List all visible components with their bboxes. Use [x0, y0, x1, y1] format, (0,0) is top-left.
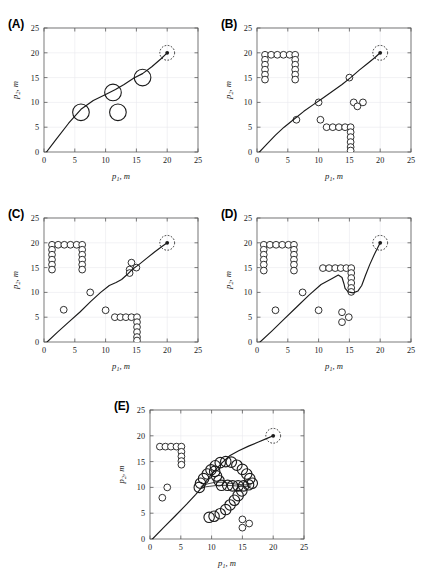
svg-text:25: 25: [407, 346, 415, 355]
svg-text:25: 25: [407, 156, 415, 165]
svg-text:20: 20: [269, 543, 277, 552]
svg-text:0: 0: [42, 346, 46, 355]
svg-text:10: 10: [137, 483, 145, 492]
svg-text:25: 25: [194, 346, 202, 355]
svg-text:5: 5: [141, 509, 145, 518]
svg-text:p1, m: p1, m: [324, 361, 343, 372]
panel-c-label: (C): [8, 207, 24, 221]
svg-text:0: 0: [148, 543, 152, 552]
svg-text:15: 15: [345, 156, 353, 165]
svg-text:0: 0: [255, 346, 259, 355]
svg-text:p1, m: p1, m: [217, 558, 236, 569]
panel-a-label: (A): [8, 17, 24, 31]
svg-text:15: 15: [244, 74, 252, 83]
svg-text:p2, m: p2, m: [10, 271, 21, 290]
svg-text:5: 5: [286, 346, 290, 355]
svg-text:10: 10: [102, 346, 110, 355]
svg-text:25: 25: [137, 406, 145, 415]
panel-c: (C) 05101520250510152025p1, mp2, m: [0, 204, 212, 384]
svg-text:15: 15: [137, 458, 145, 467]
svg-text:p2, m: p2, m: [116, 466, 127, 485]
svg-text:0: 0: [42, 156, 46, 165]
svg-text:15: 15: [31, 74, 39, 83]
svg-text:20: 20: [31, 239, 39, 248]
svg-text:5: 5: [73, 156, 77, 165]
svg-text:20: 20: [137, 432, 145, 441]
svg-text:15: 15: [238, 543, 246, 552]
svg-text:p2, m: p2, m: [10, 81, 21, 100]
svg-text:0: 0: [248, 338, 252, 347]
panel-e-plot: 05101520250510152025p1, mp2, m: [106, 396, 318, 581]
svg-text:20: 20: [163, 346, 171, 355]
svg-text:5: 5: [35, 123, 39, 132]
panel-a-plot: 05101520250510152025p1, mp2, m: [0, 14, 212, 194]
svg-text:25: 25: [31, 24, 39, 33]
svg-text:p1, m: p1, m: [324, 171, 343, 182]
svg-text:p2, m: p2, m: [223, 81, 234, 100]
svg-text:0: 0: [141, 535, 145, 544]
svg-text:20: 20: [376, 156, 384, 165]
panel-e-label: (E): [114, 399, 129, 413]
svg-text:25: 25: [194, 156, 202, 165]
svg-text:15: 15: [132, 156, 140, 165]
panel-b: (B) 05101520250510152025p1, mp2, m: [213, 14, 425, 194]
figure-panel-grid: (A) 05101520250510152025p1, mp2, m (B) 0…: [0, 0, 427, 586]
svg-text:10: 10: [244, 288, 252, 297]
svg-text:15: 15: [345, 346, 353, 355]
svg-text:20: 20: [31, 49, 39, 58]
svg-text:10: 10: [315, 346, 323, 355]
svg-text:20: 20: [244, 49, 252, 58]
svg-text:5: 5: [248, 313, 252, 322]
svg-text:25: 25: [300, 543, 308, 552]
svg-text:10: 10: [31, 98, 39, 107]
panel-a: (A) 05101520250510152025p1, mp2, m: [0, 14, 212, 194]
svg-text:0: 0: [248, 148, 252, 157]
svg-text:10: 10: [102, 156, 110, 165]
panel-d-plot: 05101520250510152025p1, mp2, m: [213, 204, 425, 384]
svg-text:5: 5: [35, 313, 39, 322]
svg-text:15: 15: [132, 346, 140, 355]
svg-text:p1, m: p1, m: [111, 171, 130, 182]
svg-text:20: 20: [163, 156, 171, 165]
svg-text:5: 5: [73, 346, 77, 355]
svg-text:15: 15: [244, 264, 252, 273]
svg-text:20: 20: [244, 239, 252, 248]
svg-text:0: 0: [35, 338, 39, 347]
svg-text:25: 25: [244, 24, 252, 33]
svg-text:0: 0: [255, 156, 259, 165]
svg-text:10: 10: [208, 543, 216, 552]
svg-text:25: 25: [244, 214, 252, 223]
svg-text:5: 5: [286, 156, 290, 165]
svg-text:20: 20: [376, 346, 384, 355]
panel-b-plot: 05101520250510152025p1, mp2, m: [213, 14, 425, 194]
svg-text:25: 25: [31, 214, 39, 223]
svg-text:10: 10: [315, 156, 323, 165]
svg-text:0: 0: [35, 148, 39, 157]
panel-d-label: (D): [221, 207, 237, 221]
svg-text:p2, m: p2, m: [223, 271, 234, 290]
panel-c-plot: 05101520250510152025p1, mp2, m: [0, 204, 212, 384]
svg-text:5: 5: [248, 123, 252, 132]
svg-text:5: 5: [179, 543, 183, 552]
panel-e: (E) 05101520250510152025p1, mp2, m: [106, 396, 318, 581]
panel-d: (D) 05101520250510152025p1, mp2, m: [213, 204, 425, 384]
panel-b-label: (B): [221, 17, 237, 31]
svg-text:15: 15: [31, 264, 39, 273]
svg-text:10: 10: [31, 288, 39, 297]
svg-text:p1, m: p1, m: [111, 361, 130, 372]
svg-text:10: 10: [244, 98, 252, 107]
